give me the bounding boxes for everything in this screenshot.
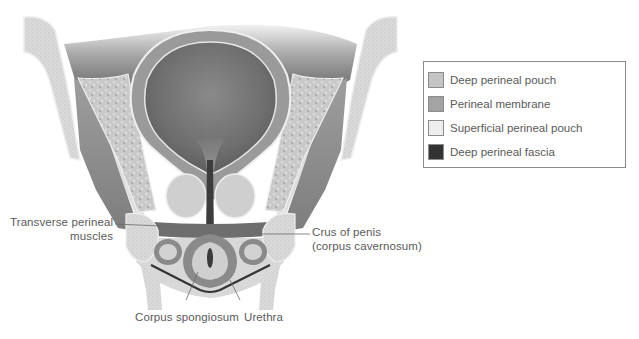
label-transverse-perineal-muscles: Transverse perineal muscles	[10, 215, 113, 243]
legend-item-perineal-membrane: Perineal membrane	[428, 92, 625, 115]
label-transverse-perineal-line1: Transverse perineal	[10, 215, 113, 229]
legend-label: Deep perineal fascia	[450, 146, 555, 158]
legend-swatch-superficial-perineal-pouch	[428, 120, 444, 136]
legend: Deep perineal pouch Perineal membrane Su…	[423, 61, 626, 168]
label-crus-of-penis: Crus of penis (corpus cavernosum)	[312, 225, 422, 253]
legend-label: Perineal membrane	[450, 98, 550, 110]
legend-swatch-deep-perineal-fascia	[428, 144, 444, 160]
label-crus-of-penis-line1: Crus of penis	[312, 225, 422, 239]
right-hip-bone	[341, 17, 397, 160]
pelvis-coronal-section-illustration	[0, 0, 639, 339]
label-corpus-spongiosum: Corpus spongiosum	[135, 310, 239, 324]
label-crus-of-penis-line2: (corpus cavernosum)	[312, 239, 422, 253]
left-hip-bone	[24, 17, 80, 160]
legend-item-superficial-perineal-pouch: Superficial perineal pouch	[428, 116, 625, 139]
label-urethra: Urethra	[244, 310, 283, 324]
legend-item-deep-perineal-fascia: Deep perineal fascia	[428, 140, 625, 163]
label-transverse-perineal-line2: muscles	[10, 229, 113, 243]
legend-label: Superficial perineal pouch	[450, 122, 582, 134]
legend-swatch-perineal-membrane	[428, 96, 444, 112]
legend-label: Deep perineal pouch	[450, 74, 556, 86]
legend-swatch-deep-perineal-pouch	[428, 72, 444, 88]
legend-item-deep-perineal-pouch: Deep perineal pouch	[428, 68, 625, 91]
